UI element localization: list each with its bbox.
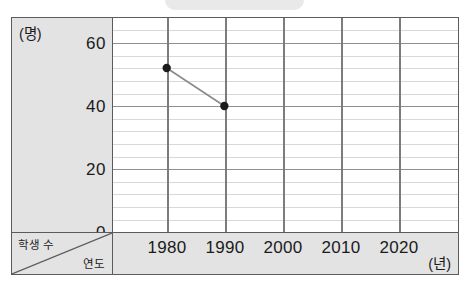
y-tick-label-20: 20 [86, 161, 106, 178]
series-segment-1980-1990 [167, 68, 225, 106]
x-tick-label-2020: 2020 [379, 238, 418, 258]
x-tick-label-1980: 1980 [147, 238, 186, 258]
x-tick-label-1990: 1990 [205, 238, 244, 258]
corner-category-label: 연도 [83, 255, 105, 271]
axis-corner-legend-box: 학생 수 연도 [12, 233, 113, 274]
y-tick-label-60: 60 [86, 35, 106, 52]
x-axis-unit-label: (년) [428, 252, 451, 273]
data-point-1990[interactable] [220, 102, 228, 110]
top-rounded-tab [165, 0, 304, 10]
data-point-1980[interactable] [163, 64, 171, 72]
y-axis-band: (명) 60 40 20 0 [12, 18, 113, 232]
y-tick-label-40: 40 [86, 98, 106, 115]
corner-series-label: 학생 수 [18, 236, 54, 252]
y-axis-unit-label: (명) [19, 22, 42, 43]
x-tick-label-2010: 2010 [321, 238, 360, 258]
line-chart: (명) 60 40 20 0 [11, 17, 459, 275]
x-tick-label-2000: 2000 [263, 238, 302, 258]
x-axis-band: 학생 수 연도 1980 1990 2000 2010 2020 (년) [12, 232, 458, 274]
data-series-students [113, 18, 458, 232]
plot-area [113, 18, 458, 232]
